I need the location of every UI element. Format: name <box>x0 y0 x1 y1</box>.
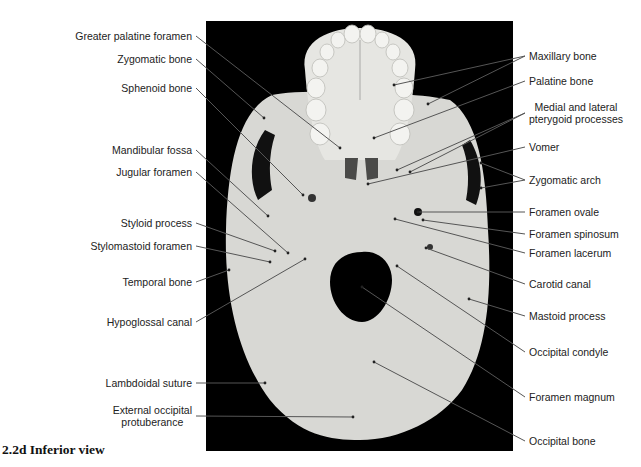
label-occipital-bone: Occipital bone <box>529 435 596 447</box>
label-zygomatic-bone: Zygomatic bone <box>117 53 192 65</box>
label-text: Greater palatine foramen <box>75 30 192 42</box>
label-foramen-ovale: Foramen ovale <box>529 206 599 218</box>
label-stylomastoid-foramen: Stylomastoid foramen <box>90 240 192 252</box>
label-text: Foramen lacerum <box>529 247 611 259</box>
label-styloid-process: Styloid process <box>121 217 192 229</box>
label-temporal-bone: Temporal bone <box>123 276 192 288</box>
label-text: Occipital bone <box>529 435 596 447</box>
label-foramen-lacerum: Foramen lacerum <box>529 247 611 259</box>
label-mandibular-fossa: Mandibular fossa <box>112 144 192 156</box>
label-text: Vomer <box>529 141 559 153</box>
label-text: protuberance <box>113 416 192 428</box>
label-text: Styloid process <box>121 217 192 229</box>
label-text: Occipital condyle <box>529 346 608 358</box>
label-sphenoid-bone: Sphenoid bone <box>121 82 192 94</box>
label-mastoid-process: Mastoid process <box>529 310 605 322</box>
label-foramen-magnum: Foramen magnum <box>529 391 615 403</box>
label-lambdoidal-suture: Lambdoidal suture <box>106 377 192 389</box>
label-text: Hypoglossal canal <box>107 316 192 328</box>
label-text: pterygoid processes <box>529 113 623 125</box>
label-text: Temporal bone <box>123 276 192 288</box>
label-text: Foramen magnum <box>529 391 615 403</box>
label-text: Lambdoidal suture <box>106 377 192 389</box>
label-pterygoid-processes: Medial and lateralpterygoid processes <box>529 101 623 125</box>
label-text: Foramen ovale <box>529 206 599 218</box>
label-text: Carotid canal <box>529 278 591 290</box>
label-palatine-bone: Palatine bone <box>529 75 593 87</box>
label-zygomatic-arch: Zygomatic arch <box>529 174 601 186</box>
label-text: Sphenoid bone <box>121 82 192 94</box>
label-text: Zygomatic arch <box>529 174 601 186</box>
label-jugular-foramen: Jugular foramen <box>116 166 192 178</box>
figure-caption: 2.2d Inferior view <box>2 442 105 458</box>
label-external-occipital-protuberance: External occipitalprotuberance <box>113 404 192 428</box>
label-vomer: Vomer <box>529 141 559 153</box>
skull-illustration <box>206 21 513 451</box>
label-text: Mandibular fossa <box>112 144 192 156</box>
label-text: Foramen spinosum <box>529 228 619 240</box>
label-text: Palatine bone <box>529 75 593 87</box>
label-maxillary-bone: Maxillary bone <box>529 50 597 62</box>
label-text: Medial and lateral <box>529 101 623 113</box>
label-occipital-condyle: Occipital condyle <box>529 346 608 358</box>
label-hypoglossal-canal: Hypoglossal canal <box>107 316 192 328</box>
skull-inferior-photo <box>206 21 513 451</box>
label-carotid-canal: Carotid canal <box>529 278 591 290</box>
label-text: Maxillary bone <box>529 50 597 62</box>
label-foramen-spinosum: Foramen spinosum <box>529 228 619 240</box>
label-text: Stylomastoid foramen <box>90 240 192 252</box>
label-text: Jugular foramen <box>116 166 192 178</box>
label-text: Zygomatic bone <box>117 53 192 65</box>
label-greater-palatine-foramen: Greater palatine foramen <box>75 30 192 42</box>
label-text: Mastoid process <box>529 310 605 322</box>
label-text: External occipital <box>113 404 192 416</box>
